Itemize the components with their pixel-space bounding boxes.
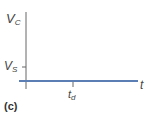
y-axis-label-main: V [6,11,15,26]
td-label-subscript: d [71,93,75,102]
td-tick-label: td [68,88,76,102]
panel-label: (c) [4,100,17,112]
y-axis-label: VC [6,11,20,27]
vs-tick-label: VS [4,59,17,74]
vs-label-subscript: S [12,65,17,74]
vs-label-main: V [4,59,12,73]
x-axis-label: t [140,78,143,92]
plot-canvas [0,0,154,123]
y-axis-label-subscript: C [15,18,21,27]
